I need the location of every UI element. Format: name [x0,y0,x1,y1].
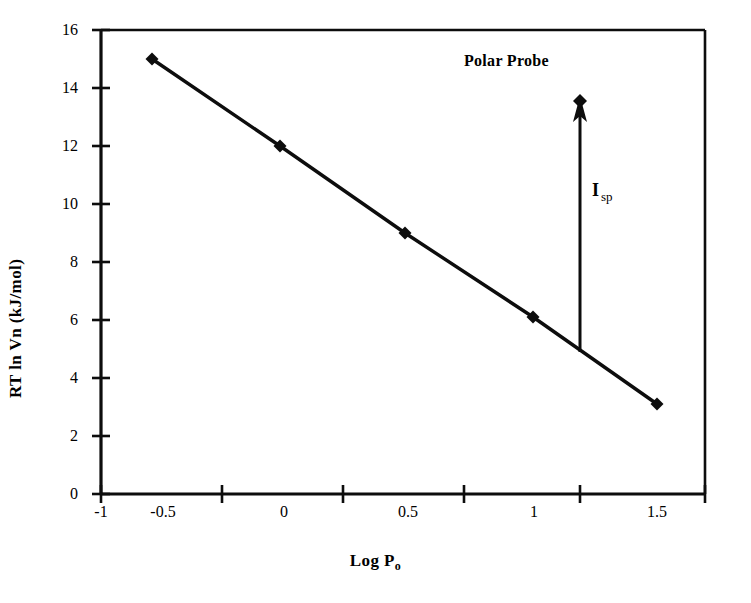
chart-figure: RT ln Vn (kJ/mol) 16 14 12 10 8 6 4 2 0 … [0,0,751,603]
plot-canvas [0,0,751,603]
axis-frame [101,30,705,494]
data-series-alkane-line [146,53,664,411]
isp-arrow [573,96,587,352]
data-point-marker [573,94,587,108]
polar-probe-marker [573,94,587,108]
